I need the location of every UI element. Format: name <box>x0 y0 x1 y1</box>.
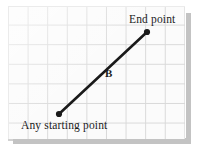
end-point-label: End point <box>129 14 175 26</box>
starting-point-label: Any starting point <box>21 120 107 132</box>
vector-b-label: B <box>105 68 112 79</box>
vector-diagram-figure: End point Any starting point B <box>0 0 202 151</box>
vector-b-end-dot <box>144 29 150 35</box>
vector-b-line <box>59 32 147 114</box>
vector-b-start-dot <box>56 111 62 117</box>
